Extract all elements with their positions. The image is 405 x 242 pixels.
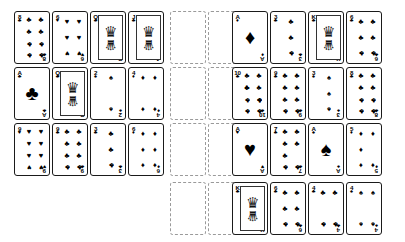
card-pip-icon: ♥ bbox=[39, 140, 43, 148]
playing-card[interactable]: 7♣7♣♣♣♣♣♣♣♣ bbox=[270, 123, 306, 176]
playing-card[interactable]: 9♣9♣♣♣♣♣♣♣♣♣ bbox=[270, 67, 306, 120]
empty-slot-outline[interactable] bbox=[170, 11, 206, 64]
card-slot[interactable]: 8♣8♣♣♣♣♣♣♣♣♣ bbox=[346, 67, 382, 120]
card-pip-icon: ♦ bbox=[153, 146, 157, 154]
card-slot[interactable]: A♣A♣♣ bbox=[14, 67, 50, 120]
card-pip-icon: ♣ bbox=[289, 18, 294, 26]
card-suit-icon: ♣ bbox=[54, 130, 61, 135]
card-pip-icon: ♥ bbox=[65, 34, 69, 42]
card-corner-index-top-left: 10♣ bbox=[234, 70, 241, 80]
playing-card[interactable]: 4♦4♦♦♦♦♦ bbox=[128, 67, 164, 120]
card-slot[interactable]: 3♠3♠♠♠♠ bbox=[308, 67, 344, 120]
playing-card[interactable]: 3♣3♣♣♣♣ bbox=[270, 11, 306, 64]
card-slot[interactable]: 4♦4♦♦♦♦♦ bbox=[128, 67, 164, 120]
playing-card[interactable]: 5♦5♦♦♦♦♦♦ bbox=[346, 123, 382, 176]
ace-center-suit-icon: ♦ bbox=[233, 12, 267, 63]
card-slot[interactable]: 8♣8♣♣♣♣♣♣♣♣♣ bbox=[14, 11, 50, 64]
playing-card[interactable]: K♣K♣♛♛ bbox=[232, 182, 268, 235]
playing-card[interactable]: Q♣Q♣♛♛ bbox=[52, 67, 88, 120]
card-pip-icon: ♣ bbox=[65, 163, 70, 171]
card-slot[interactable]: A♠A♠♠ bbox=[308, 123, 344, 176]
card-slot[interactable]: A♥A♥♥ bbox=[232, 123, 268, 176]
card-slot[interactable]: K♣K♣♛♛ bbox=[308, 11, 344, 64]
card-corner-index-top-left: 5♦ bbox=[348, 126, 355, 136]
card-pip-icon: ♥ bbox=[77, 34, 81, 42]
card-pip-icon: ♣ bbox=[65, 152, 70, 160]
playing-card[interactable]: 10♣10♣♣♣♣♣♣♣♣♣♣♣ bbox=[232, 67, 268, 120]
playing-card[interactable]: A♠A♠♠ bbox=[308, 123, 344, 176]
playing-card[interactable]: 8♣8♣♣♣♣♣♣♣♣♣ bbox=[346, 67, 382, 120]
playing-card[interactable]: 6♥6♥♥♥♥♥♥♥ bbox=[52, 11, 88, 64]
playing-card[interactable]: J♣J♣♛♛ bbox=[128, 11, 164, 64]
card-pip-field: ♦♦♦♦ bbox=[137, 70, 161, 117]
empty-card-slot[interactable] bbox=[170, 182, 206, 235]
card-pip-field: ♦♦♦♦♦ bbox=[355, 126, 379, 173]
card-slot[interactable]: 2♠2♠♠♠ bbox=[90, 67, 126, 120]
playing-card[interactable]: 8♣8♣♣♣♣♣♣♣♣♣ bbox=[14, 11, 50, 64]
court-card-figure: ♛♛ bbox=[98, 15, 123, 60]
card-pip-icon: ♥ bbox=[65, 18, 69, 26]
empty-slot-outline[interactable] bbox=[170, 182, 206, 235]
card-slot[interactable]: 6♣6♣♣♣♣♣♣♣ bbox=[346, 11, 382, 64]
card-slot[interactable]: 4♠4♠♠♠♠♠ bbox=[346, 182, 382, 235]
card-slot[interactable]: 7♣7♣♣♣♣♣♣♣♣ bbox=[270, 123, 306, 176]
card-pip-icon: ♦ bbox=[141, 74, 145, 82]
card-slot[interactable]: 9♥9♥♥♥♥♥♥♥♥♥ bbox=[14, 123, 50, 176]
playing-card[interactable]: K♣K♣♛♛ bbox=[308, 11, 344, 64]
playing-card[interactable]: 2♠2♠♠♠ bbox=[90, 67, 126, 120]
card-pip-field: ♥♥♥♥♥♥ bbox=[61, 14, 85, 61]
card-pip-icon: ♣ bbox=[39, 28, 44, 36]
card-suit-icon: ♠ bbox=[348, 189, 355, 194]
empty-card-slot[interactable] bbox=[170, 123, 206, 176]
card-pip-icon: ♠ bbox=[359, 189, 363, 197]
playing-card[interactable]: 3♣3♣♣♣♣ bbox=[90, 123, 126, 176]
card-corner-index-top-left: 9♥ bbox=[16, 126, 23, 136]
playing-card[interactable]: 9♣9♣♣♣♣♣♣♣♣♣ bbox=[52, 123, 88, 176]
card-pip-field: ♥♥♥♥♥♥♥♥ bbox=[23, 126, 47, 173]
card-slot[interactable]: 10♣10♣♣♣♣♣♣♣♣♣♣♣ bbox=[232, 67, 268, 120]
empty-slot-outline[interactable] bbox=[170, 123, 206, 176]
playing-card[interactable]: 4♣4♣♣♣♣♣ bbox=[308, 182, 344, 235]
empty-card-slot[interactable] bbox=[170, 11, 206, 64]
card-slot[interactable]: A♦A♦♦ bbox=[232, 11, 268, 64]
empty-slot-outline[interactable] bbox=[170, 67, 206, 120]
playing-card[interactable]: 4♠4♠♠♠♠♠ bbox=[346, 182, 382, 235]
card-pip-icon: ♣ bbox=[283, 140, 288, 148]
card-pip-field: ♣♣♣♣♣♣♣♣ bbox=[61, 126, 85, 173]
card-pip-icon: ♣ bbox=[333, 220, 338, 228]
court-portrait-lower-icon: ♛ bbox=[142, 39, 155, 51]
card-slot[interactable]: 3♣3♣♣♣♣ bbox=[90, 123, 126, 176]
card-slot[interactable]: J♣J♣♛♛ bbox=[128, 11, 164, 64]
card-corner-index-top-left: 3♠ bbox=[310, 70, 317, 80]
card-slot[interactable]: 4♣4♣♣♣♣♣ bbox=[308, 182, 344, 235]
playing-card[interactable]: 9♥9♥♥♥♥♥♥♥♥♥ bbox=[14, 123, 50, 176]
card-slot[interactable]: 6♣6♣♣♣♣♣♣♣ bbox=[270, 182, 306, 235]
card-slot[interactable]: 3♣3♣♣♣♣ bbox=[270, 11, 306, 64]
card-pip-icon: ♦ bbox=[141, 105, 145, 113]
card-slot[interactable]: 9♣9♣♣♣♣♣♣♣♣♣ bbox=[52, 123, 88, 176]
playing-card[interactable]: Q♣Q♣♛♛ bbox=[90, 11, 126, 64]
card-pip-icon: ♣ bbox=[359, 18, 364, 26]
card-slot[interactable]: 6♥6♥♥♥♥♥♥♥ bbox=[52, 11, 88, 64]
card-slot[interactable]: K♣K♣♛♛ bbox=[232, 182, 268, 235]
card-pip-icon: ♥ bbox=[39, 163, 43, 171]
card-pip-icon: ♣ bbox=[77, 128, 82, 136]
playing-card[interactable]: A♥A♥♥ bbox=[232, 123, 268, 176]
card-slot[interactable]: Q♣Q♣♛♛ bbox=[52, 67, 88, 120]
card-pip-icon: ♠ bbox=[327, 105, 331, 113]
card-corner-index-top-left: 3♣ bbox=[272, 14, 279, 24]
playing-card[interactable]: A♦A♦♦ bbox=[232, 11, 268, 64]
playing-card[interactable]: 3♠3♠♠♠♠ bbox=[308, 67, 344, 120]
card-slot[interactable]: Q♣Q♣♛♛ bbox=[90, 11, 126, 64]
court-portrait-lower-icon: ♛ bbox=[322, 39, 335, 51]
card-slot[interactable]: 6♦6♦♦♦♦♦♦♦ bbox=[128, 123, 164, 176]
card-pip-icon: ♣ bbox=[27, 51, 32, 59]
playing-card[interactable]: A♣A♣♣ bbox=[14, 67, 50, 120]
card-slot[interactable]: 9♣9♣♣♣♣♣♣♣♣♣ bbox=[270, 67, 306, 120]
card-slot[interactable]: 5♦5♦♦♦♦♦♦ bbox=[346, 123, 382, 176]
ace-center-suit-icon: ♣ bbox=[15, 68, 49, 119]
playing-card[interactable]: 6♣6♣♣♣♣♣♣♣ bbox=[270, 182, 306, 235]
empty-card-slot[interactable] bbox=[170, 67, 206, 120]
playing-card[interactable]: 6♦6♦♦♦♦♦♦♦ bbox=[128, 123, 164, 176]
playing-card[interactable]: 6♣6♣♣♣♣♣♣♣ bbox=[346, 11, 382, 64]
